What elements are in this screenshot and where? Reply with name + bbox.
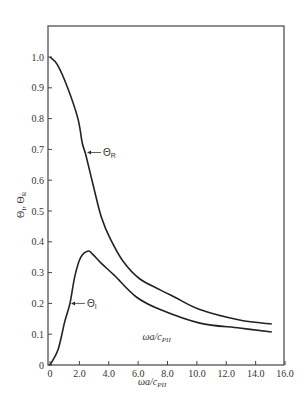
x-tick-label: 8.0: [161, 368, 174, 379]
y-tick-label: 0.3: [32, 267, 45, 278]
x-tick-label: 4.0: [103, 368, 116, 379]
x-tick-label: 0: [48, 368, 53, 379]
y-tick-label: 0.6: [32, 175, 45, 186]
chart: 00.10.20.30.40.50.60.70.80.91.0 02.04.06…: [0, 0, 308, 406]
curve-r: [50, 57, 272, 324]
y-tick-label: 1.0: [32, 52, 45, 63]
x-tick-label: 10.0: [188, 368, 206, 379]
arrowhead-icon: [87, 150, 91, 154]
x-tick-label: 14.0: [247, 368, 265, 379]
y-tick-label: 0.9: [32, 82, 45, 93]
y-tick-label: 0: [39, 360, 44, 371]
curves: [50, 57, 272, 365]
y-tick-label: 0.8: [32, 113, 45, 124]
arrowhead-icon: [71, 301, 75, 305]
x-axis-ticks: 02.04.06.08.010.012.014.016.0: [48, 361, 294, 379]
plot-frame: [48, 26, 284, 365]
curve-labels: ΘRΘI: [71, 147, 116, 310]
curve-i: [50, 251, 272, 365]
x-tick-label: 16.0: [276, 368, 294, 379]
curve-label-i: ΘI: [87, 298, 97, 310]
x-tick-label: 12.0: [218, 368, 236, 379]
y-axis-ticks: 00.10.20.30.40.50.60.70.80.91.0: [32, 52, 53, 371]
y-tick-label: 0.5: [32, 206, 45, 217]
y-axis-title: ΘI, ΘR: [15, 191, 28, 218]
y-tick-label: 0.2: [32, 298, 45, 309]
annotation-omega-a-c: ωa/cPII: [143, 331, 172, 344]
y-tick-label: 0.7: [32, 144, 45, 155]
curve-label-r: ΘR: [103, 147, 116, 159]
y-tick-label: 0.4: [32, 236, 45, 247]
x-tick-label: 2.0: [73, 368, 86, 379]
y-tick-label: 0.1: [32, 329, 45, 340]
